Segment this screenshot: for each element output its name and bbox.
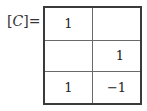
matrix-cell [44,40,93,71]
matrix-cell: −1 [93,71,142,104]
matrix-variable: C [12,13,23,29]
matrix-cell: 1 [44,7,93,40]
matrix-cell: 1 [44,71,93,104]
matrix-row: 1 [44,40,141,71]
matrix-table: 1 1 1 −1 [43,6,142,105]
matrix-cell [93,7,142,40]
matrix-row: 1 −1 [44,71,141,104]
matrix-row: 1 [44,7,141,40]
matrix-cell: 1 [93,40,142,71]
matrix-label: [C]= [7,12,40,30]
equals-sign: = [29,13,41,29]
